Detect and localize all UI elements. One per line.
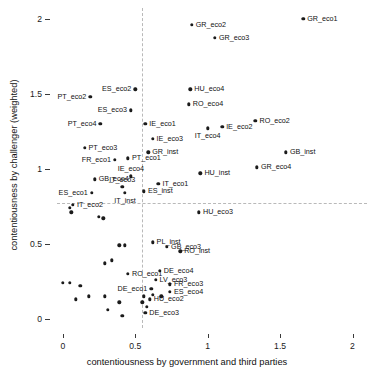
- scatter-plot-figure: GR_eco1GR_eco2GR_eco3ES_eco2HU_eco4PT_ec…: [0, 0, 374, 375]
- data-point-unlabeled: [141, 301, 144, 304]
- data-point-unlabeled: [118, 301, 121, 304]
- y-axis-tick-label: 1: [37, 164, 42, 174]
- x-axis-tick: [208, 334, 209, 338]
- point-label: GR_eco4: [261, 164, 291, 171]
- data-point: [284, 151, 287, 154]
- y-axis-tick: [45, 244, 50, 245]
- x-axis-tick-label: 0.5: [129, 341, 141, 351]
- point-label: FR_eco1: [82, 156, 111, 163]
- point-label: IT_inst: [114, 197, 136, 204]
- y-axis-tick-label: 2: [37, 14, 42, 24]
- point-label: HU_inst: [204, 170, 230, 177]
- point-label: DE_eco4: [164, 267, 194, 274]
- data-point: [83, 146, 86, 149]
- point-label: PT_eco2: [58, 93, 87, 100]
- point-label: HU_eco3: [203, 209, 233, 216]
- plot-panel: GR_eco1GR_eco2GR_eco3ES_eco2HU_eco4PT_ec…: [57, 8, 367, 328]
- x-axis-tick-label: 2: [350, 341, 355, 351]
- point-label: DE_eco3: [149, 309, 179, 316]
- data-point: [154, 278, 157, 281]
- data-point: [148, 298, 151, 301]
- point-label: RO_inst: [184, 248, 210, 255]
- x-axis-label: contentiousness by government and third …: [0, 357, 374, 367]
- point-label: RO_eco4: [193, 101, 223, 108]
- data-point: [213, 36, 216, 39]
- point-label: HU_eco4: [194, 86, 224, 93]
- data-point-unlabeled: [103, 262, 106, 265]
- data-point: [113, 158, 116, 161]
- reference-line-horizontal: [57, 203, 367, 204]
- data-point-unlabeled: [110, 259, 113, 262]
- y-axis-tick-label: 0.5: [30, 239, 42, 249]
- point-label: IE_eco2: [226, 123, 252, 130]
- data-point-unlabeled: [87, 295, 90, 298]
- point-label: PT_eco4: [68, 120, 97, 127]
- x-axis-tick-label: 1.5: [274, 341, 286, 351]
- point-label: IT_eco2: [77, 201, 103, 208]
- point-label: HU_eco2: [154, 296, 184, 303]
- point-label: ES_eco3: [98, 107, 127, 114]
- data-point: [123, 191, 126, 194]
- x-axis-tick: [63, 334, 64, 338]
- x-axis-tick: [353, 334, 354, 338]
- data-point: [187, 102, 190, 105]
- point-label: DE_eco1: [118, 285, 148, 292]
- data-point: [206, 126, 209, 129]
- data-point-unlabeled: [70, 211, 73, 214]
- data-point: [144, 122, 147, 125]
- point-label: RO_eco2: [259, 117, 289, 124]
- data-point: [149, 287, 152, 290]
- data-point: [220, 125, 223, 128]
- point-label: ES_inst: [148, 188, 173, 195]
- data-point-unlabeled: [61, 281, 64, 284]
- data-point-unlabeled: [106, 308, 109, 311]
- data-point: [126, 272, 129, 275]
- data-point-unlabeled: [120, 314, 123, 317]
- data-point-unlabeled: [97, 215, 100, 218]
- y-axis-tick: [45, 319, 50, 320]
- data-point: [99, 122, 102, 125]
- data-point: [90, 191, 93, 194]
- data-point-unlabeled: [102, 217, 105, 220]
- data-point-unlabeled: [142, 295, 145, 298]
- data-point: [134, 87, 137, 90]
- data-point: [151, 137, 154, 140]
- data-point-unlabeled: [123, 244, 126, 247]
- data-point: [189, 87, 192, 90]
- point-label: GR_eco3: [219, 34, 249, 41]
- point-label: ES_eco2: [102, 86, 131, 93]
- data-point: [142, 190, 145, 193]
- point-label: GR_eco2: [196, 21, 226, 28]
- data-point: [190, 23, 193, 26]
- data-point: [302, 17, 305, 20]
- data-point: [199, 172, 202, 175]
- data-point: [120, 185, 123, 188]
- x-axis-tick-label: 1: [205, 341, 210, 351]
- point-label: PT_eco1: [132, 155, 161, 162]
- data-point: [71, 203, 74, 206]
- point-label: GB_inst: [290, 149, 316, 156]
- x-axis-tick: [135, 334, 136, 338]
- x-axis-tick-label: 0: [60, 341, 65, 351]
- y-axis-tick: [45, 94, 50, 95]
- data-point: [93, 178, 96, 181]
- data-point: [197, 211, 200, 214]
- y-axis-tick: [45, 169, 50, 170]
- data-point: [144, 311, 147, 314]
- data-point-unlabeled: [74, 298, 77, 301]
- point-label: GR_eco1: [307, 15, 337, 22]
- y-axis-label: contentiousness by challenger (weighted): [9, 65, 19, 265]
- data-point: [126, 157, 129, 160]
- data-point: [151, 241, 154, 244]
- data-point: [157, 182, 160, 185]
- data-point: [254, 119, 257, 122]
- point-label: IT_eco4: [195, 132, 221, 139]
- point-label: PT_eco3: [89, 144, 118, 151]
- x-axis-tick: [280, 334, 281, 338]
- data-point: [129, 108, 132, 111]
- y-axis-tick: [45, 19, 50, 20]
- y-axis-tick-label: 1.5: [30, 89, 42, 99]
- data-point: [255, 166, 258, 169]
- data-point-unlabeled: [68, 206, 71, 209]
- point-label: IE_eco3: [157, 135, 183, 142]
